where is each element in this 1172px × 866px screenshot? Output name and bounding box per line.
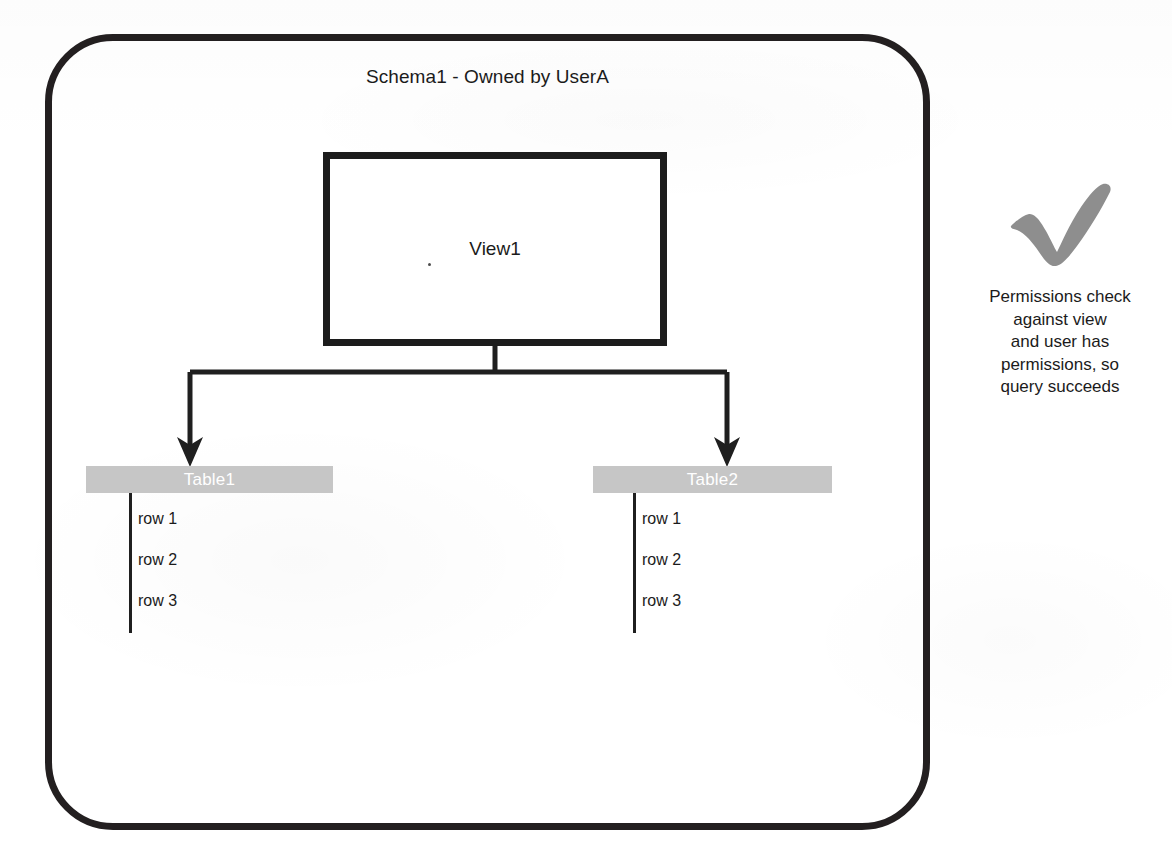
check-mark-icon bbox=[1005, 182, 1115, 268]
table-row: row 3 bbox=[642, 591, 681, 632]
annotation-line: Permissions check bbox=[955, 286, 1165, 309]
table-row: row 3 bbox=[138, 591, 177, 632]
annotation-line: and user has bbox=[955, 331, 1165, 354]
table-node-table1[interactable]: Table1 row 1 row 2 row 3 bbox=[86, 466, 333, 635]
table-body-table2: row 1 row 2 row 3 bbox=[593, 493, 832, 635]
table-row: row 1 bbox=[138, 509, 177, 550]
annotation-line: against view bbox=[955, 309, 1165, 332]
annotation-line: query succeeds bbox=[955, 376, 1165, 399]
permissions-annotation: Permissions check against view and user … bbox=[955, 182, 1165, 399]
table-rows-table1: row 1 row 2 row 3 bbox=[138, 509, 177, 632]
view-label: View1 bbox=[330, 238, 660, 260]
table-left-rule bbox=[633, 493, 636, 633]
table-body-table1: row 1 row 2 row 3 bbox=[86, 493, 333, 635]
table-node-table2[interactable]: Table2 row 1 row 2 row 3 bbox=[593, 466, 832, 635]
table-row: row 2 bbox=[138, 550, 177, 591]
view-to-tables-connectors bbox=[0, 0, 1172, 866]
view-stray-mark bbox=[428, 263, 431, 266]
annotation-text: Permissions check against view and user … bbox=[955, 286, 1165, 399]
table-rows-table2: row 1 row 2 row 3 bbox=[642, 509, 681, 632]
table-header-table2: Table2 bbox=[593, 466, 832, 493]
table-row: row 1 bbox=[642, 509, 681, 550]
table-left-rule bbox=[129, 493, 132, 633]
diagram-canvas: Schema1 - Owned by UserA View1 Table1 ro… bbox=[0, 0, 1172, 866]
table-header-table1: Table1 bbox=[86, 466, 333, 493]
table-row: row 2 bbox=[642, 550, 681, 591]
annotation-line: permissions, so bbox=[955, 354, 1165, 377]
view-node[interactable]: View1 bbox=[323, 152, 667, 346]
